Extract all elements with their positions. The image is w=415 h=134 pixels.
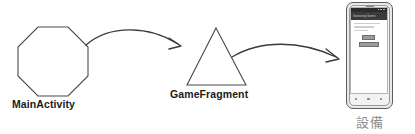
arrow-activity-to-fragment — [86, 30, 178, 45]
phone-status-bar — [351, 8, 387, 12]
status-bar-icons — [378, 9, 385, 11]
battery-icon — [383, 9, 385, 11]
main-activity-octagon[interactable] — [18, 27, 88, 96]
app-bar-title: Guessing Game — [353, 14, 376, 18]
screen-primary-button[interactable] — [362, 35, 375, 40]
content-text-line — [354, 23, 380, 25]
recents-key-icon[interactable] — [380, 98, 382, 100]
content-text-line — [354, 26, 374, 28]
phone-app-bar: Guessing Game — [351, 12, 387, 20]
content-text-line — [354, 30, 368, 32]
back-key-icon[interactable] — [355, 98, 357, 100]
arrow-activity-to-fragment-head — [169, 38, 181, 49]
main-activity-label: MainActivity — [12, 98, 75, 110]
architecture-diagram: MainActivity GameFragment Guessing Game — [0, 0, 415, 134]
phone-screen-buttons — [354, 35, 384, 47]
device-label: 設備 — [356, 112, 383, 131]
phone-screen-content — [351, 20, 387, 48]
screen-secondary-button[interactable] — [359, 42, 379, 47]
phone-screen[interactable]: Guessing Game — [350, 7, 388, 94]
game-fragment-triangle[interactable] — [187, 28, 246, 85]
arrow-fragment-to-device — [232, 44, 336, 57]
phone-navigation-bar — [350, 95, 388, 103]
game-fragment-label: GameFragment — [170, 88, 248, 100]
device-phone-mockup[interactable]: Guessing Game — [346, 2, 393, 109]
wifi-icon — [380, 9, 382, 11]
signal-icon — [378, 9, 380, 11]
home-key-icon[interactable] — [367, 98, 369, 100]
